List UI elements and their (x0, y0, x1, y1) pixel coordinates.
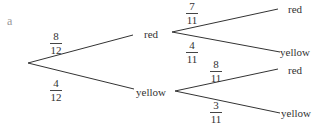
prob-yellow-red: 811 (210, 59, 222, 84)
tree-lines (0, 0, 318, 132)
prob-red-yellow: 411 (186, 40, 198, 65)
prob-red-1: 812 (50, 31, 62, 56)
prob-yellow-1: 412 (50, 78, 62, 103)
prob-red-red: 711 (186, 1, 198, 26)
node-yellow: yellow (136, 86, 166, 98)
leaf-red-yellow: yellow (280, 46, 310, 58)
leaf-yellow-yellow: yellow (281, 107, 311, 119)
leaf-red-red: red (288, 3, 302, 15)
leaf-yellow-red: red (288, 64, 302, 76)
prob-yellow-yellow: 311 (210, 100, 222, 125)
node-red: red (144, 28, 158, 40)
